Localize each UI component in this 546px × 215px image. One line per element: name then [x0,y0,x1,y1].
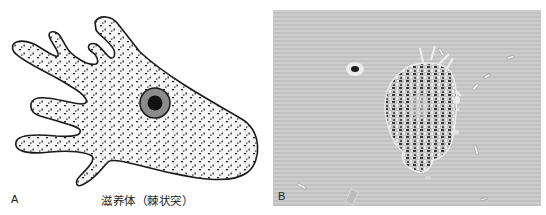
panel-a-drawing: A 滋养体（棘状突） [0,0,270,215]
panel-a-caption: 滋养体（棘状突） [101,192,193,208]
panel-label-a: A [11,193,18,205]
panel-label-b: B [278,190,285,202]
micrograph-image [273,10,541,206]
nucleolus [148,96,163,111]
trophozoite-drawing [0,0,270,215]
panel-b-micrograph: B [273,10,541,206]
cytoplasm-granules [12,17,257,186]
